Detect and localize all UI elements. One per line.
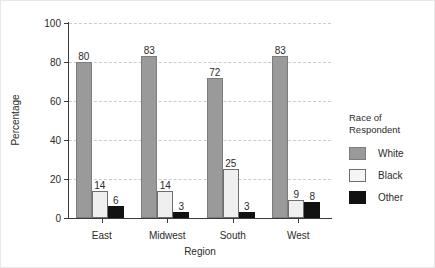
legend-label-black: Black (378, 170, 402, 181)
y-axis-tick (64, 23, 69, 24)
x-axis-line (68, 218, 332, 219)
bar-midwest-black: 14 (157, 191, 173, 218)
bar-east-black: 14 (92, 191, 108, 218)
legend-swatch-white (349, 147, 366, 160)
x-axis-tick (298, 218, 299, 223)
bar-value-label: 14 (94, 180, 105, 191)
y-axis-title: Percentage (10, 94, 21, 145)
legend-entry-other: Other (349, 186, 433, 208)
y-axis-tick (64, 218, 69, 219)
y-axis-tick (64, 140, 69, 141)
bar-value-label: 6 (113, 195, 119, 206)
y-axis-tick (64, 62, 69, 63)
bar-south-black: 25 (223, 169, 239, 218)
bar-value-label: 80 (78, 51, 89, 62)
x-axis-label-east: East (92, 230, 112, 241)
plot-area: 02040608010080146East83143Midwest72253So… (69, 23, 331, 218)
legend-entry-list: WhiteBlackOther (349, 142, 433, 208)
x-axis-title: Region (184, 246, 216, 257)
x-axis-tick (167, 218, 168, 223)
bar-south-other: 3 (239, 212, 255, 218)
bar-value-label: 14 (160, 180, 171, 191)
bar-value-label: 83 (275, 45, 286, 56)
legend-title: Race of Respondent (349, 112, 433, 136)
bar-value-label: 9 (293, 189, 299, 200)
bar-east-other: 6 (108, 206, 124, 218)
bar-south-white: 72 (207, 78, 223, 218)
chart-legend: Race of Respondent WhiteBlackOther (349, 112, 433, 208)
bar-value-label: 25 (225, 158, 236, 169)
y-axis-tick-label: 60 (50, 96, 61, 107)
gridline (69, 179, 331, 180)
bar-value-label: 8 (309, 191, 315, 202)
bar-west-other: 8 (304, 202, 320, 218)
legend-label-other: Other (378, 192, 403, 203)
x-axis-tick (102, 218, 103, 223)
bar-value-label: 72 (209, 67, 220, 78)
bar-west-black: 9 (288, 200, 304, 218)
y-axis-tick-label: 0 (55, 213, 61, 224)
bar-midwest-white: 83 (141, 56, 157, 218)
y-axis-tick-label: 100 (44, 18, 61, 29)
y-axis-tick-label: 20 (50, 174, 61, 185)
bar-midwest-other: 3 (173, 212, 189, 218)
bar-value-label: 3 (178, 201, 184, 212)
legend-entry-white: White (349, 142, 433, 164)
x-axis-label-west: West (287, 230, 310, 241)
gridline (69, 23, 331, 24)
bar-east-white: 80 (76, 62, 92, 218)
gridline (69, 62, 331, 63)
y-axis-tick-label: 80 (50, 57, 61, 68)
legend-swatch-other (349, 191, 366, 204)
gridline (69, 101, 331, 102)
y-axis-tick (64, 179, 69, 180)
x-axis-label-midwest: Midwest (149, 230, 186, 241)
legend-entry-black: Black (349, 164, 433, 186)
y-axis-tick-label: 40 (50, 135, 61, 146)
bar-value-label: 3 (244, 201, 250, 212)
bar-value-label: 83 (144, 45, 155, 56)
x-axis-label-south: South (220, 230, 246, 241)
x-axis-tick (233, 218, 234, 223)
y-axis-tick (64, 101, 69, 102)
legend-swatch-black (349, 169, 366, 182)
bar-west-white: 83 (272, 56, 288, 218)
legend-label-white: White (378, 148, 404, 159)
gridline (69, 140, 331, 141)
chart-canvas: Percentage 02040608010080146East83143Mid… (0, 0, 435, 268)
